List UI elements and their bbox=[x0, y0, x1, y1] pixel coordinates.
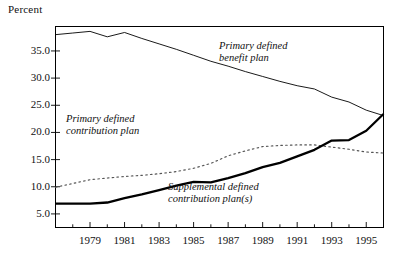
annotation-primary-defined-contribution: Primary defined contribution plan bbox=[66, 113, 139, 136]
y-tick-label: 30.0 bbox=[8, 71, 50, 83]
annotation-db-line1: Primary defined bbox=[219, 40, 288, 52]
y-tick-label: 15.0 bbox=[8, 153, 50, 165]
y-tick-label: 35.0 bbox=[8, 44, 50, 56]
y-tick-label: 20.0 bbox=[8, 125, 50, 137]
y-tick-label: 5.0 bbox=[8, 207, 50, 219]
annotation-pdc-line1: Primary defined bbox=[66, 113, 139, 125]
chart-figure: Percent 35.030.025.020.015.010.05.0 1979… bbox=[0, 0, 396, 264]
annotation-db-line2: benefit plan bbox=[219, 52, 288, 64]
annotation-sdc-line2: contribution plan(s) bbox=[168, 193, 259, 205]
annotation-supplemental-defined-contribution: Supplemental defined contribution plan(s… bbox=[168, 181, 259, 204]
y-tick-label: 10.0 bbox=[8, 180, 50, 192]
x-tick-label: 1995 bbox=[344, 234, 388, 246]
x-tick-marks bbox=[56, 222, 384, 228]
plot-area bbox=[0, 0, 396, 264]
annotation-primary-defined-benefit: Primary defined benefit plan bbox=[219, 40, 288, 63]
annotation-sdc-line1: Supplemental defined bbox=[168, 181, 259, 193]
annotation-pdc-line2: contribution plan bbox=[66, 125, 139, 137]
y-tick-label: 25.0 bbox=[8, 98, 50, 110]
